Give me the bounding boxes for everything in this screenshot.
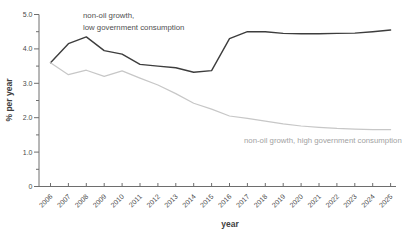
y-axis-title: % per year	[4, 78, 14, 122]
y-tick-label: 2.0	[23, 114, 33, 121]
x-tick-label: 2021	[306, 193, 322, 209]
x-tick-label: 2011	[128, 193, 144, 209]
x-tick-label: 2020	[288, 193, 304, 209]
x-axis-title: year	[221, 219, 239, 229]
x-tick-label: 2012	[145, 193, 161, 209]
y-tick-label: 4.0	[23, 45, 33, 52]
x-tick-label: 2010	[109, 193, 125, 209]
x-tick-label: 2017	[235, 193, 251, 209]
x-tick-label: 2013	[163, 193, 179, 209]
x-tick-label: 2015	[199, 193, 215, 209]
x-tick-label: 2008	[74, 193, 90, 209]
x-tick-label: 2022	[324, 193, 340, 209]
axes: 01.02.03.04.05.0200620072008200920102011…	[23, 11, 396, 209]
y-tick-label: 3.0	[23, 80, 33, 87]
data-series	[51, 30, 391, 130]
x-tick-label: 2018	[253, 193, 269, 209]
series-label-low-line2: low government consumption	[83, 23, 184, 32]
x-tick-label: 2006	[38, 193, 54, 209]
chart-canvas: 01.02.03.04.05.0200620072008200920102011…	[0, 0, 402, 234]
x-tick-label: 2007	[56, 193, 72, 209]
y-tick-label: 1.0	[23, 149, 33, 156]
series-label-low-line1: non-oil growth,	[83, 11, 134, 20]
y-tick-label: 5.0	[23, 11, 33, 18]
x-tick-label: 2009	[91, 193, 107, 209]
line-chart-figure: 01.02.03.04.05.0200620072008200920102011…	[0, 0, 402, 234]
series-line-0	[51, 30, 391, 72]
x-tick-label: 2016	[217, 193, 233, 209]
x-tick-label: 2023	[342, 193, 358, 209]
x-tick-label: 2025	[378, 193, 394, 209]
series-line-1	[51, 63, 391, 130]
x-tick-label: 2014	[181, 193, 197, 209]
y-tick-label: 0	[29, 183, 33, 190]
x-tick-label: 2019	[270, 193, 286, 209]
x-tick-label: 2024	[360, 193, 376, 209]
series-label-high: non-oil growth, high government consumpt…	[244, 136, 402, 145]
